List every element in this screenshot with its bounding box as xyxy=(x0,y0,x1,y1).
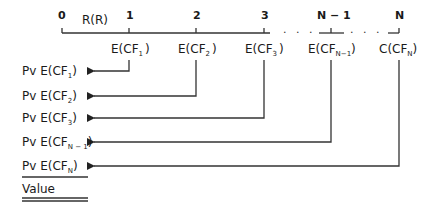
time-zero-label: 0 xyxy=(58,9,66,22)
arrow-pv-n xyxy=(94,60,399,166)
tick-label-n: N xyxy=(395,9,404,22)
cash-flow-2: E(CF2) xyxy=(178,42,217,58)
tick-label-n-1: N − 1 xyxy=(317,9,351,22)
discount-arrows xyxy=(94,60,399,166)
arrow-pv-1 xyxy=(94,60,129,71)
present-value-column: Pv E(CF1) Pv E(CF2) Pv E(CF3) Pv E(CFN −… xyxy=(22,64,92,201)
rate-label: R(R) xyxy=(82,13,108,27)
arrow-pv-3 xyxy=(94,60,264,118)
tick-label-1: 1 xyxy=(126,9,134,22)
pv-1: Pv E(CF1) xyxy=(22,64,77,80)
cash-flow-n-1: E(CFN−1) xyxy=(308,42,356,58)
arrow-pv-2 xyxy=(94,60,196,96)
tick-label-2: 2 xyxy=(193,9,201,22)
cash-flow-valuation-diagram: 0 R(R) 1 2 3 . . . N − 1 . . . N E(CF1) … xyxy=(0,0,435,214)
timeline: 0 R(R) 1 2 3 . . . N − 1 . . . N xyxy=(58,9,404,36)
pv-n: Pv E(CFN) xyxy=(22,159,78,175)
pv-3: Pv E(CF3) xyxy=(22,111,77,127)
cash-flow-3: E(CF3) xyxy=(245,42,284,58)
cash-flow-n: C(CFN) xyxy=(379,42,417,58)
pv-2: Pv E(CF2) xyxy=(22,89,77,105)
total-value-label: Value xyxy=(22,182,55,196)
pv-n-1: Pv E(CFN − 1) xyxy=(22,135,92,151)
cash-flow-labels: E(CF1) E(CF2) E(CF3) E(CFN−1) C(CFN) xyxy=(111,42,417,58)
arrow-pv-n-1 xyxy=(94,60,331,142)
ellipsis-1: . . . xyxy=(283,23,315,36)
ellipsis-2: . . . xyxy=(350,23,382,36)
tick-label-3: 3 xyxy=(261,9,269,22)
cash-flow-1: E(CF1) xyxy=(111,42,150,58)
